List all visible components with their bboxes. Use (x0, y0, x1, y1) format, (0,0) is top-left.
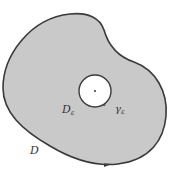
center-point (94, 90, 96, 92)
domain-diagram: Dε γε D (0, 0, 171, 169)
label-d: D (29, 144, 39, 157)
